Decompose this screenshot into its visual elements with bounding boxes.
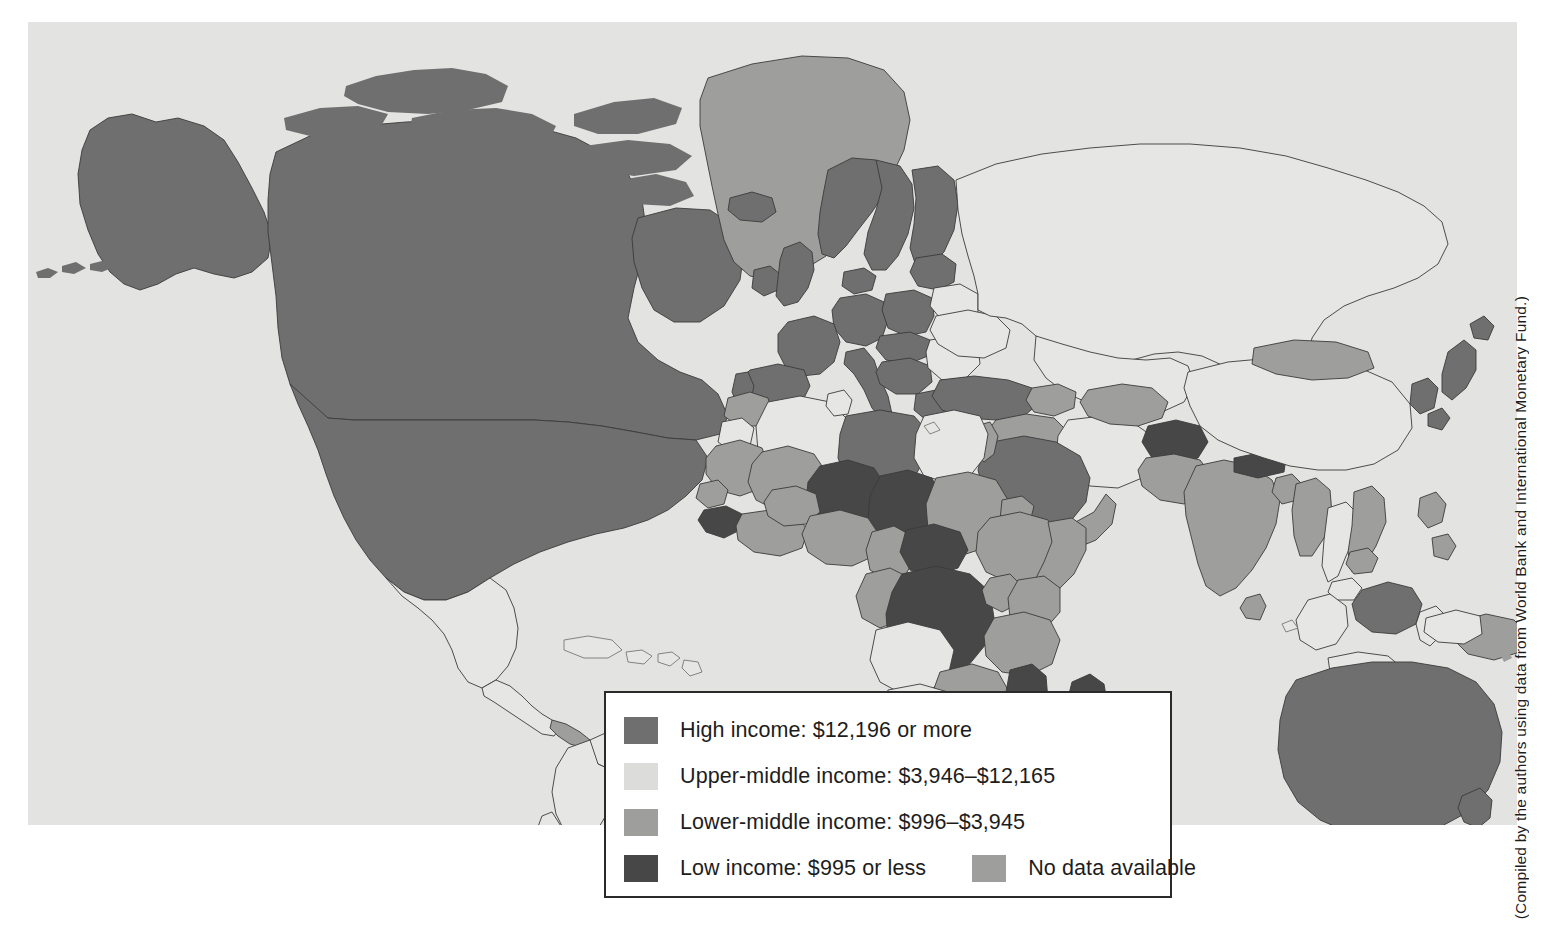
legend-label-lower-middle-income: Lower-middle income: $996–$3,945 — [680, 810, 1025, 835]
country-baltic-states — [910, 254, 956, 290]
region-central-america — [482, 680, 560, 736]
source-credit-text: (Compiled by the authors using data from… — [1512, 296, 1530, 919]
lower-middle-income-swatch — [624, 809, 658, 836]
country-north-south-korea — [1410, 378, 1438, 414]
country-sri-lanka — [1240, 594, 1266, 620]
high-income-swatch — [624, 717, 658, 744]
country-philippines — [1418, 492, 1456, 560]
country-georgia-armenia-azerbaijan — [1026, 384, 1076, 416]
country-finland — [910, 166, 958, 266]
country-japan — [1428, 316, 1494, 430]
low-income-swatch — [624, 855, 658, 882]
legend-label-no-data: No data available — [1028, 856, 1196, 881]
no-data-swatch — [972, 855, 1006, 882]
country-egypt — [914, 410, 988, 482]
country-india — [1184, 460, 1280, 596]
legend-label-upper-middle-income: Upper-middle income: $3,946–$12,165 — [680, 764, 1055, 789]
region-caribbean — [564, 636, 702, 676]
country-poland — [882, 290, 934, 336]
legend-label-low-income: Low income: $995 or less — [680, 856, 926, 881]
source-credit: (Compiled by the authors using data from… — [1506, 296, 1536, 896]
country-borneo — [1352, 582, 1422, 634]
legend-label-high-income: High income: $12,196 or more — [680, 718, 972, 743]
country-sumatra — [1296, 594, 1348, 650]
legend-row-lower-middle-income: Lower-middle income: $996–$3,945 — [606, 799, 1170, 845]
country-denmark — [842, 268, 876, 294]
legend-row-high-income: High income: $12,196 or more — [606, 707, 1170, 753]
map-legend: High income: $12,196 or more Upper-middl… — [604, 691, 1172, 898]
world-income-map-figure: High income: $12,196 or more Upper-middl… — [0, 0, 1558, 934]
country-guinea-sierra-leone — [698, 506, 742, 538]
region-asia — [1184, 316, 1517, 678]
legend-row-low-income: Low income: $995 or less No data availab… — [606, 845, 1170, 891]
country-aleutian-islands — [36, 260, 116, 278]
legend-row-upper-middle-income: Upper-middle income: $3,946–$12,165 — [606, 753, 1170, 799]
country-cambodia — [1346, 548, 1378, 574]
country-ireland — [752, 266, 780, 296]
upper-middle-income-swatch — [624, 763, 658, 790]
country-russia — [956, 144, 1448, 386]
legend-group-no-data: No data available — [972, 855, 1196, 882]
region-north-america — [36, 68, 744, 748]
